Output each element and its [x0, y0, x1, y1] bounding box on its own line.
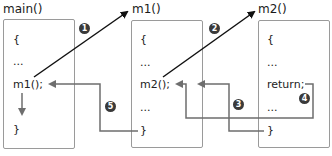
step-badge-4: 4	[299, 93, 310, 104]
step-badge-1: 1	[79, 23, 90, 34]
return-arrow-m1-to-main	[50, 84, 138, 131]
return-arrow-m2-return-to-m1	[177, 84, 313, 118]
call-arrow-m1-to-m2	[163, 12, 254, 77]
step-badge-2: 2	[209, 23, 220, 34]
step-badge-3: 3	[233, 99, 244, 110]
step-badge-5: 5	[105, 101, 116, 112]
return-arrow-m2-end-to-m1	[199, 84, 264, 131]
call-arrow-main-to-m1	[34, 12, 127, 77]
flow-arrows	[0, 0, 332, 156]
